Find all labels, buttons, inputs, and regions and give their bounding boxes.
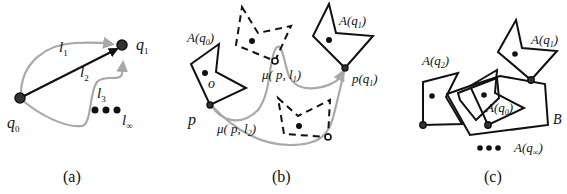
shape-A-q1 [498,20,557,80]
caption-c: (c) [484,168,502,186]
shape-A-q2 [423,73,462,125]
A-q0-center [481,92,487,98]
mu-p-l1-point [272,58,278,64]
label-l1: l1 [59,39,68,58]
label-A-q-infinity: A(q∞) [513,140,543,157]
dashed-config-lower-center [296,123,302,129]
point-p-q1 [342,65,348,71]
ellipsis-dots [477,145,501,151]
label-B: B [553,112,562,127]
label-mu-p-l1: μ( p, l1) [261,67,301,84]
ellipsis-dots [92,107,121,114]
panel-a: l1 l2 l3 l∞ q1 q0 (a) [7,36,149,186]
figure-canvas: l1 l2 l3 l∞ q1 q0 (a) A(q0) o p μ( p, l1… [0,0,567,194]
point-p [207,102,213,108]
dashed-config-upper-center [249,38,255,44]
caption-b: (b) [272,168,291,186]
panel-c: A(q1) A(q2) A(q0) B A(q∞) (c) [420,20,562,186]
label-l-infinity: l∞ [122,112,133,131]
dashed-config-lower [278,98,330,137]
shape-A-q0 [191,44,246,105]
label-q0: q0 [7,114,20,134]
mu-p-l3-point [325,134,331,140]
panel-b: A(q0) o p μ( p, l1) μ( p, l2) A(q1) p(q1… [186,4,378,186]
label-A-q0: A(q0) [186,30,214,47]
A-q1-reference-point [528,77,534,83]
label-p: p [187,111,196,129]
label-mu-p-l2: μ( p, l2) [216,121,256,138]
label-A-q1: A(q1) [530,32,558,49]
A-q1-center [326,37,332,43]
node-q1 [117,40,127,50]
A-q1-center [512,51,518,57]
caption-a: (a) [63,168,81,186]
A-q2-center [429,93,435,99]
A-q2-reference-point [420,122,426,128]
label-o: o [208,76,215,91]
node-q0 [15,93,25,103]
label-l2: l2 [80,64,89,83]
label-A-q0: A(q0) [485,100,513,117]
label-A-q1: A(q1) [338,13,366,30]
path-l2-straight-arrow [20,49,117,98]
label-A-q2: A(q2) [421,53,449,70]
label-l3: l3 [97,85,106,104]
label-p-q1: p(q1) [351,71,378,88]
A-q0-reference-point [485,122,491,128]
label-q1: q1 [136,36,149,56]
